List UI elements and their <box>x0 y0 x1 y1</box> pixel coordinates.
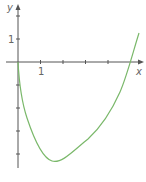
x-axis-label: x <box>135 66 142 77</box>
function-curve <box>18 33 139 161</box>
chart-svg: y 1 1 x <box>0 0 146 182</box>
y-tick-label-1: 1 <box>8 34 14 45</box>
y-axis-label: y <box>6 2 14 13</box>
x-tick-label-1: 1 <box>38 66 44 77</box>
y-axis-arrow-icon <box>16 4 21 10</box>
x-axis-arrow-icon <box>138 60 144 65</box>
